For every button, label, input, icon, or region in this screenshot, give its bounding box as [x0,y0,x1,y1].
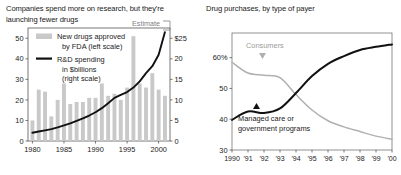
x-tick-label: '95 [307,155,316,162]
figure-root: Companies spend more on research, but th… [0,0,401,175]
y-tick-label: 50 [15,34,23,43]
x-tick-label: '97 [339,155,348,162]
bar [138,83,142,141]
bar [163,96,167,141]
left-chart-svg: 01020304050 05101520$25 1980198519901995… [0,0,196,175]
left-chart-legend: New drugs approved by FDA (left scale) R… [36,32,125,83]
left-x-axis-ticks: 19801985199019952000 [24,141,167,154]
x-tick-label: 1985 [56,145,72,154]
right-chart-panel: Drug purchases, by type of payer 3040506… [196,0,401,175]
x-tick-label: '98 [355,155,364,162]
x-tick-label: '99 [371,155,380,162]
x-tick-label: 1995 [119,145,135,154]
y-tick-label: 20 [15,96,23,105]
bar [87,98,91,141]
bar [81,102,85,141]
x-tick-label: '93 [275,155,284,162]
x-tick-label: '91 [243,155,252,162]
x-tick-label: '00 [387,155,396,162]
y-tick-label: 10 [15,116,23,125]
y-tick-label: 60% [213,53,228,62]
y-tick-label-right: 10 [175,96,183,105]
up-triangle-marker-icon [253,103,260,109]
left-axis-ticks: 01020304050 [15,34,28,146]
x-tick-label: '94 [291,155,300,162]
right-chart-title: Drug purchases, by type of payer [206,4,396,15]
right-axis-ticks: 05101520$25 [170,34,187,146]
right-chart-y-ticks: 30405060% [213,53,232,154]
y-tick-label-right: 20 [175,54,183,63]
down-triangle-marker-icon [259,53,266,59]
bar [150,73,154,141]
bar-swatch-icon [36,34,52,40]
bar [94,98,98,141]
left-chart-panel: Companies spend more on research, but th… [0,0,196,175]
y-tick-label-right: 0 [175,137,179,146]
bar [157,90,161,141]
bar [113,94,117,141]
managed-label-line2: government programs [238,124,311,133]
x-tick-label: 2000 [150,145,166,154]
bar [37,90,41,141]
line-swatch-icon [36,58,52,60]
bar [43,92,47,141]
right-chart-svg: 30405060% 1990'91'92'93'94'95'96'97'98'9… [196,0,401,175]
consumers-annotation-group: Consumers [246,41,284,59]
y-tick-label: 0 [19,137,23,146]
legend-line-label-line2: in $billions [62,65,97,74]
x-tick-label: '96 [323,155,332,162]
y-tick-label-right: $25 [175,34,187,43]
bar [144,88,148,141]
managed-label-line1: Managed care or [238,114,294,123]
y-tick-label: 40 [219,115,227,124]
right-chart-x-ticks: 1990'91'92'93'94'95'96'97'98'99'00 [224,150,396,162]
legend-bar-label-line2: by FDA (left scale) [62,42,122,51]
y-tick-label-right: 15 [175,75,183,84]
x-tick-label: 1990 [224,155,240,162]
legend-line-label-line3: (right scale) [62,74,101,83]
legend-bar-label-line1: New drugs approved [57,32,125,41]
bar [56,100,60,141]
left-chart-title: Companies spend more on research, but th… [6,4,192,25]
x-tick-label: 1980 [24,145,40,154]
y-tick-label: 40 [15,54,23,63]
bar [119,100,123,141]
bar [30,120,34,141]
y-tick-label: 50 [219,84,227,93]
managed-care-annotation-group: Managed care or government programs [238,103,311,133]
legend-line-label-line1: R&D spending [57,55,105,64]
left-bars-group [30,36,166,141]
y-tick-label: 30 [219,146,227,155]
bar [100,83,104,141]
consumers-label: Consumers [246,41,284,50]
y-tick-label: 30 [15,75,23,84]
x-tick-label: 1990 [87,145,103,154]
y-tick-label-right: 5 [175,116,179,125]
bar [62,83,66,141]
x-tick-label: '92 [259,155,268,162]
bar [125,88,129,141]
